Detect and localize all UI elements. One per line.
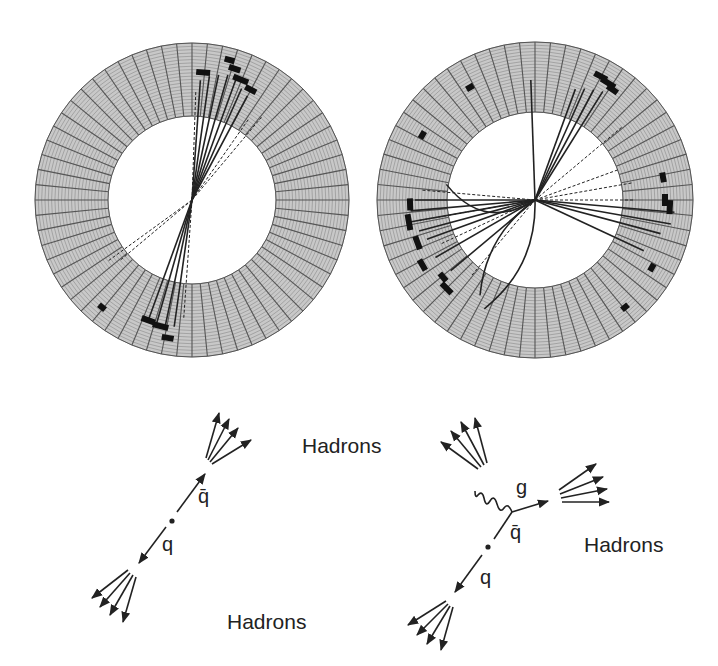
label-antiquark-right: q̄ <box>510 521 521 544</box>
vertex-dot <box>170 519 174 523</box>
figure-artwork <box>0 0 718 666</box>
antiquark-arrow <box>512 501 548 512</box>
hadron-jet-top <box>206 413 251 464</box>
label-hadrons-right: Hadrons <box>584 533 663 557</box>
label-gluon: g <box>516 476 527 499</box>
label-hadrons-top: Hadrons <box>302 434 381 458</box>
hadron-jet-antiquark <box>559 464 609 502</box>
label-antiquark-left: q̄ <box>198 485 209 508</box>
hadron-jet-gluon <box>441 418 487 469</box>
hadron-jet-quark <box>408 601 453 650</box>
hadron-jet-bottom <box>92 570 136 622</box>
label-quark-right: q <box>480 566 491 589</box>
figure: Hadrons Hadrons q̄ q Hadrons g q̄ q <box>0 0 718 666</box>
gluon-line <box>475 491 512 512</box>
three-jet-diagram <box>408 418 609 650</box>
label-quark-left: q <box>162 533 173 556</box>
two-jet-diagram <box>92 413 251 622</box>
label-hadrons-bottom: Hadrons <box>227 610 306 634</box>
vertex-dot <box>486 545 490 549</box>
quark-arrow <box>455 555 482 592</box>
